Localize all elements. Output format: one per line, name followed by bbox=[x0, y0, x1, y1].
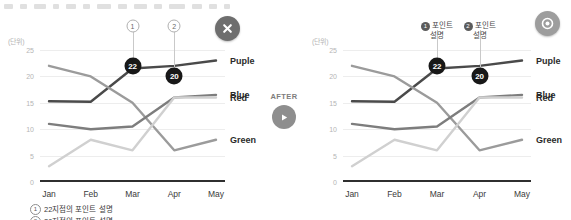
callout-2: 2포인트설명 bbox=[464, 21, 496, 41]
y-axis-tick: 5 bbox=[333, 152, 337, 159]
data-point-marker-20[interactable]: 20 bbox=[471, 68, 488, 85]
footnote-item: 220지점의 포인트 설명 bbox=[30, 216, 113, 220]
series-line-red bbox=[352, 98, 522, 167]
toolbar-glyph bbox=[53, 4, 59, 9]
y-axis-unit-label: (단위) bbox=[8, 36, 25, 46]
y-axis-tick: 0 bbox=[30, 179, 34, 186]
y-axis-tick: 15 bbox=[26, 99, 34, 106]
toolbar-glyph bbox=[118, 4, 127, 9]
series-line-blue bbox=[352, 95, 522, 129]
series-line-red bbox=[49, 98, 216, 167]
footnote-number: 1 bbox=[30, 204, 41, 215]
callout-number-2: 2 bbox=[168, 20, 181, 33]
data-point-marker-22[interactable]: 22 bbox=[429, 57, 446, 74]
callout-title: 포인트 bbox=[475, 21, 496, 31]
after-label: AFTER bbox=[262, 92, 306, 101]
series-line-green bbox=[352, 66, 522, 150]
toolbar-glyph bbox=[4, 4, 13, 9]
callout-number-2: 2 bbox=[464, 22, 473, 31]
series-label-puple: Puple bbox=[230, 56, 255, 66]
callout-1: 1포인트설명 bbox=[421, 21, 453, 41]
toolbar-glyph bbox=[209, 4, 217, 9]
after-panel: (단위) 2520151050JanFebMarAprMayPupleGreen… bbox=[310, 12, 571, 220]
toolbar-glyph bbox=[34, 4, 46, 9]
toolbar-glyph bbox=[97, 4, 111, 9]
x-axis-tick: Apr bbox=[473, 189, 486, 199]
toolbar-glyph bbox=[134, 4, 147, 9]
footnote-text: 22지점의 포인트 설명 bbox=[44, 204, 113, 216]
data-point-marker-22[interactable]: 22 bbox=[124, 57, 141, 74]
y-axis-tick: 10 bbox=[26, 126, 34, 133]
y-axis-tick: 20 bbox=[329, 73, 337, 80]
x-axis-tick: Feb bbox=[83, 189, 98, 199]
y-axis-tick: 5 bbox=[30, 152, 34, 159]
series-label-red: Red bbox=[536, 93, 553, 103]
series-label-green: Green bbox=[230, 135, 256, 145]
truncated-toolbar-strip bbox=[0, 0, 571, 12]
circle-mark-icon bbox=[535, 11, 560, 36]
series-label-red: Red bbox=[230, 93, 247, 103]
footnote-list: 122지점의 포인트 설명220지점의 포인트 설명 bbox=[30, 204, 113, 220]
arrow-right-circle-icon bbox=[272, 105, 296, 129]
toolbar-glyph bbox=[20, 4, 27, 9]
x-axis-tick: Mar bbox=[430, 189, 445, 199]
series-line-blue bbox=[49, 95, 216, 129]
callout-title: 포인트 bbox=[432, 21, 453, 31]
y-axis-tick: 0 bbox=[333, 179, 337, 186]
toolbar-glyph bbox=[66, 4, 76, 9]
footnote-item: 122지점의 포인트 설명 bbox=[30, 204, 113, 216]
callout-subtitle: 설명 bbox=[421, 31, 453, 41]
data-point-marker-20[interactable]: 20 bbox=[166, 68, 183, 85]
toolbar-glyph bbox=[83, 4, 90, 9]
y-axis-tick: 20 bbox=[26, 73, 34, 80]
callout-number-1: 1 bbox=[126, 20, 139, 33]
series-label-green: Green bbox=[536, 135, 562, 145]
footnote-text: 20지점의 포인트 설명 bbox=[44, 216, 113, 220]
before-plot-area: 2520151050JanFebMarAprMayPupleGreenBlueR… bbox=[40, 50, 225, 182]
series-label-puple: Puple bbox=[536, 56, 561, 66]
y-axis-tick: 10 bbox=[329, 126, 337, 133]
x-axis-tick: Feb bbox=[387, 189, 402, 199]
footnote-number: 2 bbox=[30, 216, 41, 220]
x-axis-tick: Mar bbox=[125, 189, 140, 199]
transition-indicator: AFTER bbox=[262, 92, 306, 129]
y-axis-tick: 25 bbox=[26, 47, 34, 54]
before-panel: (단위) 2520151050JanFebMarAprMayPupleGreen… bbox=[0, 12, 290, 220]
x-axis-tick: Jan bbox=[345, 189, 359, 199]
x-mark-icon bbox=[215, 16, 240, 41]
x-axis-tick: Jan bbox=[42, 189, 56, 199]
toolbar-glyph bbox=[169, 4, 185, 9]
x-axis-tick: May bbox=[208, 189, 224, 199]
y-axis-unit-label: (단위) bbox=[312, 36, 329, 46]
callout-subtitle: 설명 bbox=[464, 31, 496, 41]
series-line-green bbox=[49, 66, 216, 150]
y-axis-tick: 15 bbox=[329, 99, 337, 106]
y-axis-tick: 25 bbox=[329, 47, 337, 54]
toolbar-glyph bbox=[192, 4, 202, 9]
toolbar-glyph bbox=[224, 4, 230, 9]
after-plot-area: 2520151050JanFebMarAprMayPupleGreenBlueR… bbox=[343, 50, 531, 182]
callout-number-1: 1 bbox=[421, 22, 430, 31]
x-axis-tick: Apr bbox=[168, 189, 181, 199]
toolbar-glyph bbox=[154, 4, 162, 9]
x-axis-tick: May bbox=[514, 189, 530, 199]
